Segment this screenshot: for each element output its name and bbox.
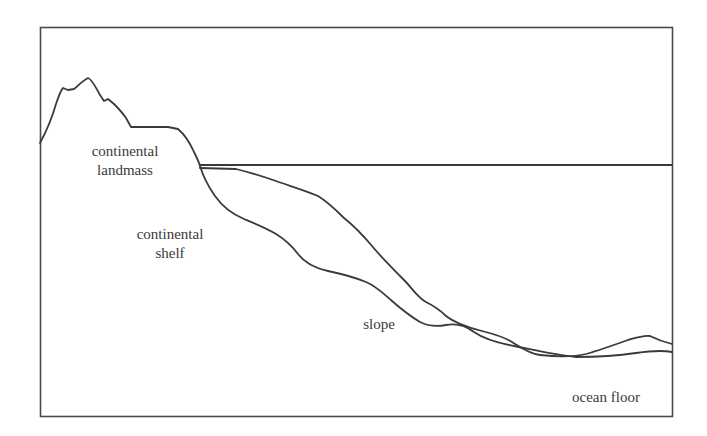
label-shelf-line1: continental — [120, 225, 220, 244]
label-shelf-line2: shelf — [120, 244, 220, 263]
ocean-profile-diagram — [0, 0, 707, 436]
label-ocean-floor-text: ocean floor — [556, 388, 656, 407]
label-continental-shelf: continental shelf — [120, 225, 220, 263]
label-ocean-floor: ocean floor — [556, 388, 656, 407]
diagram-frame — [41, 28, 673, 417]
label-landmass-line2: landmass — [70, 161, 180, 180]
label-landmass-line1: continental — [70, 142, 180, 161]
seabed-upper-line — [200, 168, 672, 356]
label-slope-text: slope — [354, 315, 404, 334]
label-slope: slope — [354, 315, 404, 334]
label-continental-landmass: continental landmass — [70, 142, 180, 180]
seabed-lower-line — [200, 166, 672, 357]
